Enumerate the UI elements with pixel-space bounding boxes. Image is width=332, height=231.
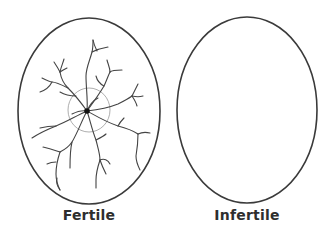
fertile-egg <box>18 18 160 204</box>
egg-candling-diagram <box>0 0 332 231</box>
blood-vessels <box>32 40 150 190</box>
fertile-label: Fertile <box>39 207 139 223</box>
embryo-dot <box>84 108 90 114</box>
infertile-label: Infertile <box>197 207 297 223</box>
infertile-egg-outline <box>177 17 317 203</box>
infertile-egg <box>177 17 317 203</box>
